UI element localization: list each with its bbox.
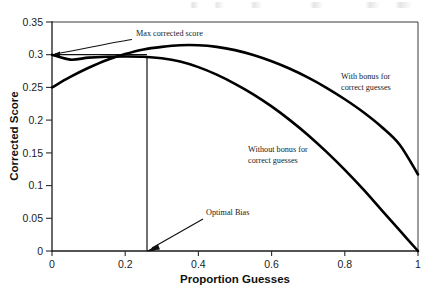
series-label-with-bonus-line2: correct guesses [341, 83, 391, 92]
curve-with-bonus [52, 45, 418, 174]
x-tick-label-4: 0.8 [337, 258, 352, 270]
chart-figure: 0 0.05 0.1 0.15 0.2 0.25 0.3 0.35 0 0.2 … [0, 0, 443, 290]
x-tick-label-0: 0 [49, 258, 55, 270]
y-axis-ticks [46, 22, 52, 251]
series-label-without-bonus-line1: Without bonus for [248, 145, 308, 154]
corrected-score-line-chart: 0 0.05 0.1 0.15 0.2 0.25 0.3 0.35 0 0.2 … [0, 0, 443, 290]
y-tick-label-3: 0.15 [23, 147, 44, 159]
y-tick-label-4: 0.2 [28, 114, 43, 126]
optimal-bias-leader-line [152, 219, 203, 248]
y-tick-label-1: 0.05 [23, 212, 44, 224]
x-axis-title: Proportion Guesses [180, 273, 290, 285]
x-tick-label-1: 0.2 [118, 258, 133, 270]
scan-artifact-header [190, 2, 425, 8]
max-score-leader-line [55, 40, 132, 55]
max-corrected-score-annotation: Max corrected score [136, 29, 203, 38]
y-tick-label-0: 0 [37, 245, 43, 257]
y-tick-label-2: 0.1 [28, 179, 43, 191]
x-axis-ticks [52, 251, 418, 256]
x-tick-label-2: 0.4 [191, 258, 206, 270]
y-tick-label-6: 0.3 [28, 48, 43, 60]
y-axis-title: Corrected Score [8, 91, 20, 180]
series-label-without-bonus-line2: correct guesses [248, 156, 298, 165]
x-tick-label-5: 1 [415, 258, 421, 270]
x-tick-label-3: 0.6 [264, 258, 279, 270]
optimal-bias-arrowhead-2 [147, 245, 160, 252]
y-tick-label-5: 0.25 [23, 81, 44, 93]
optimal-bias-annotation: Optimal Bias [206, 208, 249, 217]
series-label-with-bonus-line1: With bonus for [341, 72, 391, 81]
y-tick-label-7: 0.35 [23, 16, 44, 28]
